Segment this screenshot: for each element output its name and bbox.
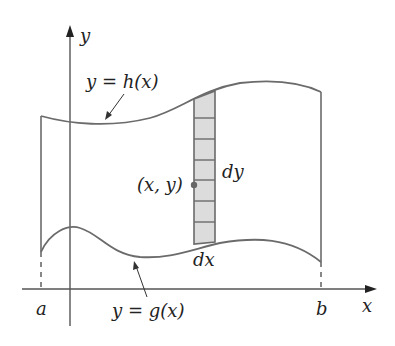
upper-curve-label: y = h(x) (85, 71, 158, 92)
y-axis-label: y (79, 25, 91, 46)
lower-curve-label: y = g(x) (111, 300, 184, 321)
point-x-y-marker (191, 182, 197, 188)
y-axis-arrow-icon (66, 25, 74, 37)
region-diagram: y x a b y = h(x) y = g(x) dy dx (x, y) (0, 0, 395, 346)
pointer-arrow-icon (133, 261, 139, 270)
lower-curve-g (41, 227, 321, 262)
dy-label: dy (222, 161, 245, 182)
x-axis-arrow-icon (365, 285, 377, 293)
x-axis-label: x (362, 295, 372, 316)
strip-dx (191, 91, 215, 244)
strip-rectangle (194, 91, 215, 244)
x-axis (22, 285, 377, 293)
dx-label: dx (193, 249, 215, 270)
h-label-pointer (105, 94, 124, 120)
point-x-y-label: (x, y) (137, 174, 183, 195)
upper-curve-h (41, 81, 321, 124)
y-axis (66, 25, 74, 326)
g-label-pointer (133, 261, 147, 297)
b-label: b (316, 298, 328, 319)
a-label: a (36, 298, 47, 319)
